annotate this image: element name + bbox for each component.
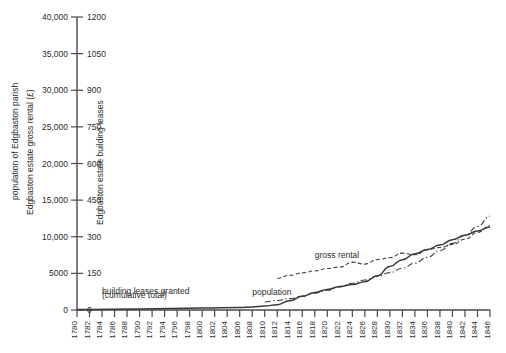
y-tick-label-right: 1050 [87, 49, 106, 59]
x-tick-label: 1826 [358, 320, 367, 338]
x-tick-label: 1806 [233, 320, 242, 338]
x-tick-label: 1808 [245, 320, 254, 338]
annotation-label: (cumulative total) [102, 290, 167, 300]
x-tick-label: 1834 [408, 320, 417, 338]
x-tick-label: 1784 [95, 320, 104, 338]
y-axis-title-gross-rental: Edgbaston estate gross rental (£) [25, 89, 35, 215]
x-tick-label: 1816 [295, 320, 304, 338]
edgbaston-estate-line-chart: 0500010,00015,00020,00025,00030,00035,00… [0, 0, 506, 353]
chart-background [0, 0, 506, 353]
x-tick-label: 1800 [195, 320, 204, 338]
y-tick-label-left: 30,000 [42, 85, 68, 95]
y-tick-label-left: 20,000 [42, 159, 68, 169]
x-tick-label: 1810 [258, 320, 267, 338]
y-axis-title-building-leases: Edgbaston estate building leases [95, 100, 105, 225]
y-tick-label-right: 900 [87, 85, 101, 95]
x-tick-label: 1832 [395, 320, 404, 338]
x-tick-label: 1802 [208, 320, 217, 338]
x-tick-label: 1814 [283, 320, 292, 338]
x-tick-label: 1794 [158, 320, 167, 338]
x-tick-label: 1780 [70, 320, 79, 338]
y-tick-label-right: 1200 [87, 12, 106, 22]
y-tick-label-left: 10,000 [42, 232, 68, 242]
y-tick-label-left: 0 [63, 305, 68, 315]
x-tick-label: 1790 [133, 320, 142, 338]
x-tick-label: 1824 [345, 320, 354, 338]
annotation-label: gross rental [315, 250, 360, 260]
y-tick-label-left: 35,000 [42, 49, 68, 59]
x-tick-label: 1844 [470, 320, 479, 338]
x-tick-label: 1842 [458, 320, 467, 338]
y-tick-label-right: 300 [87, 232, 101, 242]
x-tick-label: 1798 [183, 320, 192, 338]
y-tick-label-left: 5000 [49, 268, 68, 278]
y-axis-title-population: population of Edgbaston parish [10, 83, 20, 200]
x-tick-label: 1804 [220, 320, 229, 338]
x-tick-label: 1840 [445, 320, 454, 338]
x-tick-label: 1796 [170, 320, 179, 338]
x-tick-label: 1838 [433, 320, 442, 338]
x-tick-label: 1786 [108, 320, 117, 338]
x-tick-label: 1846 [483, 320, 492, 338]
annotation-label: population [252, 287, 292, 297]
y-tick-label-left: 15,000 [42, 195, 68, 205]
x-tick-label: 1830 [383, 320, 392, 338]
x-tick-label: 1782 [83, 320, 92, 338]
x-tick-label: 1820 [320, 320, 329, 338]
x-tick-label: 1836 [420, 320, 429, 338]
chart-container: 0500010,00015,00020,00025,00030,00035,00… [0, 0, 506, 353]
x-tick-label: 1828 [370, 320, 379, 338]
x-tick-label: 1788 [120, 320, 129, 338]
x-tick-label: 1812 [270, 320, 279, 338]
x-tick-label: 1818 [308, 320, 317, 338]
x-tick-label: 1822 [333, 320, 342, 338]
y-tick-label-right: 150 [87, 268, 101, 278]
x-tick-label: 1792 [145, 320, 154, 338]
y-tick-label-left: 40,000 [42, 12, 68, 22]
y-tick-label-left: 25,000 [42, 122, 68, 132]
